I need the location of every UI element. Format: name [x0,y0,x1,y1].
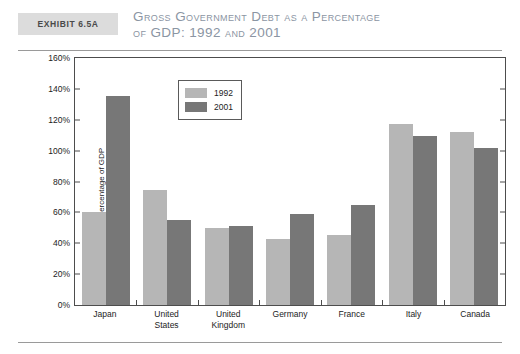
x-axis-category-label: UnitedKingdom [197,309,259,331]
bar-1992 [389,124,413,305]
bar-group [321,58,382,305]
x-axis-category-label: UnitedStates [136,309,198,331]
bar-groups [75,58,505,305]
bar-2001 [106,96,130,305]
y-axis-tick-label: 120% [48,115,70,125]
bar-2001 [229,226,253,306]
bar-1992 [82,212,106,305]
exhibit-header: Exhibit 6.5A Gross Government Debt as a … [0,0,520,48]
x-axis-category-label: Germany [259,309,321,331]
exhibit-title: Gross Government Debt as a Percentage of… [133,9,503,41]
bar-group [444,58,505,305]
y-axis-tick-label: 20% [53,269,70,279]
plot-interior: 0%20%40%60%80%100%120%140%160% [75,58,505,305]
bar-group [259,58,320,305]
y-axis-tick-label: 140% [48,84,70,94]
x-axis-category-label-line: Japan [74,309,136,320]
legend-label-2001: 2001 [214,102,233,112]
x-axis-category-label: France [321,309,383,331]
y-axis-tick-label: 160% [48,53,70,63]
legend-item-1992: 1992 [185,86,233,100]
legend-label-1992: 1992 [214,88,233,98]
bar-2001 [474,148,498,305]
x-axis-tick-mark [444,300,445,305]
legend-item-2001: 2001 [185,100,233,114]
bar-1992 [450,132,474,305]
x-axis-labels: JapanUnitedStatesUnitedKingdomGermanyFra… [74,309,506,331]
bar-group [75,58,136,305]
x-axis-tick-mark [321,300,322,305]
x-axis-category-label-line: United [136,309,198,320]
x-axis-category-label-line: Canada [444,309,506,320]
exhibit-title-line-1: Gross Government Debt as a Percentage [133,9,503,25]
x-axis-tick-mark [259,300,260,305]
x-axis-category-label-line: Italy [383,309,445,320]
bar-2001 [290,214,314,305]
x-axis-category-label-line: Germany [259,309,321,320]
legend-swatch-2001 [185,102,207,112]
y-axis-tick-label: 40% [53,238,70,248]
x-axis-category-label: Japan [74,309,136,331]
chart-plot-area: Percentage of GDP 0%20%40%60%80%100%120%… [74,57,506,306]
bar-1992 [266,239,290,305]
x-axis-tick-mark [382,300,383,305]
exhibit-title-line-2: of GDP: 1992 and 2001 [133,25,503,41]
x-axis-category-label-line: United [197,309,259,320]
x-axis-tick-mark [136,300,137,305]
exhibit-number-box: Exhibit 6.5A [18,13,118,35]
footer-divider-bottom [18,342,502,343]
x-axis-category-label-line: France [321,309,383,320]
x-axis-tick-mark [198,300,199,305]
y-axis-tick-label: 60% [53,207,70,217]
x-axis-category-label: Italy [383,309,445,331]
y-axis-tick-label: 0% [58,300,70,310]
bar-1992 [327,235,351,305]
bar-2001 [351,205,375,305]
y-axis-tick-label: 80% [53,177,70,187]
bar-group [382,58,443,305]
bar-2001 [167,220,191,305]
bar-2001 [413,136,437,305]
exhibit-number-label: Exhibit 6.5A [37,19,98,29]
header-divider-top [18,50,502,51]
x-axis-category-label-line: Kingdom [197,320,259,331]
legend-swatch-1992 [185,88,207,98]
bar-1992 [205,228,229,305]
chart-legend: 1992 2001 [178,80,242,120]
x-axis-category-label: Canada [444,309,506,331]
y-axis-tick-label: 100% [48,146,70,156]
bar-1992 [143,190,167,305]
x-axis-category-label-line: States [136,320,198,331]
